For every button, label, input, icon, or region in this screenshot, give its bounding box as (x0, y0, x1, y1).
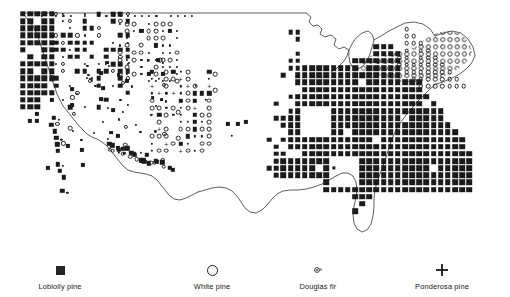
legend-label-ponderosa-pine: Ponderosa pine (382, 282, 502, 291)
map-area[interactable]: ++++++++++ (0, 0, 510, 250)
legend-item-douglas-fir[interactable]: Douglas fir (258, 250, 378, 291)
plus-sign-icon (382, 260, 502, 280)
legend-item-ponderosa-pine[interactable]: Ponderosa pine (382, 250, 502, 291)
legend-item-loblolly-pine[interactable]: Loblolly pine (0, 250, 120, 291)
map-legend: Loblolly pine White pine Douglas fir (0, 250, 510, 297)
open-circle-icon (152, 260, 272, 280)
filled-square-icon (0, 260, 120, 280)
us-boundary-outline (0, 0, 510, 250)
distribution-map-figure: ++++++++++ Loblolly pine White pine (0, 0, 510, 297)
legend-item-white-pine[interactable]: White pine (152, 250, 272, 291)
stipple-mark-icon (258, 260, 378, 280)
legend-label-white-pine: White pine (152, 282, 272, 291)
legend-label-loblolly-pine: Loblolly pine (0, 282, 120, 291)
white-pine-region-northeast (374, 31, 472, 82)
legend-label-douglas-fir: Douglas fir (258, 282, 378, 291)
